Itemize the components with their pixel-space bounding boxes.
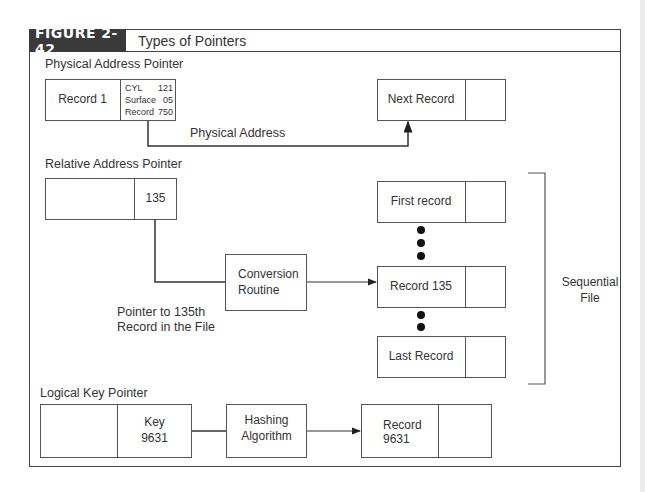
pointer-note: Pointer to 135th Record in the File	[117, 305, 215, 335]
next-record-label: Next Record	[377, 79, 465, 121]
algorithm-line: Algorithm	[241, 429, 292, 445]
field-divider	[465, 336, 466, 378]
ellipsis-dot	[417, 226, 425, 234]
record-9631-label: Record 9631	[383, 418, 422, 446]
record-1-label: Record 1	[45, 79, 120, 121]
address-key: Surface	[125, 94, 156, 106]
ellipsis-dot	[417, 252, 425, 260]
physical-heading: Physical Address Pointer	[45, 57, 183, 71]
physical-address-label: Physical Address	[190, 126, 285, 140]
routine-text: Conversion Routine	[238, 267, 298, 298]
pointer-value: 135	[134, 178, 177, 220]
algorithm-line: Hashing	[244, 413, 288, 429]
address-value: 121	[158, 82, 173, 94]
note-line: Record in the File	[117, 320, 215, 335]
field-divider	[120, 79, 121, 121]
field-divider	[465, 181, 466, 223]
conversion-routine-label: Conversion Routine	[225, 254, 307, 311]
ellipsis-dot	[417, 311, 425, 319]
address-value: 750	[158, 106, 173, 118]
address-fields: CYL121 Surface05 Record750	[125, 82, 173, 118]
record-line: 9631	[383, 432, 422, 446]
group-label-line: Sequential	[562, 275, 619, 291]
address-row-surface: Surface05	[125, 94, 173, 106]
ellipsis-dot	[417, 239, 425, 247]
field-divider	[438, 404, 439, 458]
address-value: 05	[163, 94, 173, 106]
address-row-cyl: CYL121	[125, 82, 173, 94]
address-key: Record	[125, 106, 154, 118]
address-key: CYL	[125, 82, 143, 94]
key-line: 9631	[141, 431, 168, 447]
field-divider	[465, 79, 466, 121]
note-line: Pointer to 135th	[117, 305, 215, 320]
key-value: Key 9631	[117, 404, 192, 458]
first-record-label: First record	[377, 181, 465, 223]
last-record-label: Last Record	[377, 336, 465, 378]
address-row-record: Record750	[125, 106, 173, 118]
record-135-label: Record 135	[377, 266, 465, 308]
sequential-file-label: Sequential File	[555, 275, 625, 306]
key-line: Key	[144, 415, 165, 431]
group-label-line: File	[580, 291, 599, 307]
field-divider	[465, 266, 466, 308]
logical-heading: Logical Key Pointer	[40, 386, 148, 400]
record-9631-box	[361, 404, 492, 458]
record-line: Record	[383, 418, 422, 432]
hashing-algorithm-label: Hashing Algorithm	[226, 404, 307, 454]
relative-heading: Relative Address Pointer	[45, 157, 182, 171]
ellipsis-dot	[417, 323, 425, 331]
